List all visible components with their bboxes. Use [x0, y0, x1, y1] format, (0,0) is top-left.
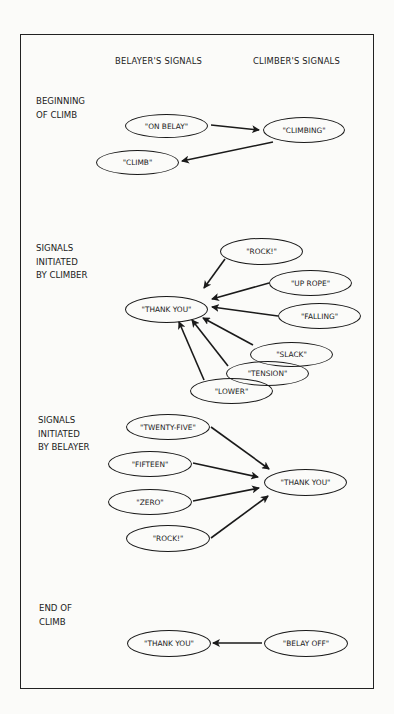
arrow-zero-to-thank-you: [193, 488, 259, 501]
arrow-fifteen-to-thank-you: [193, 463, 258, 477]
arrow-falling-to-thank-you: [212, 307, 278, 316]
arrow-rock-to-thank-you-belayer: [211, 496, 268, 538]
arrow-slack-to-thank-you: [203, 318, 253, 345]
arrow-rock-to-thank-you: [204, 259, 225, 288]
arrows-layer: [0, 0, 394, 714]
arrow-up-rope-to-thank-you: [212, 283, 269, 299]
arrow-twenty-five-to-thank-you: [211, 427, 269, 469]
arrow-tension-to-thank-you: [192, 320, 228, 366]
arrow-on-belay-to-climbing: [211, 125, 259, 130]
arrow-climbing-to-climb: [182, 142, 273, 161]
